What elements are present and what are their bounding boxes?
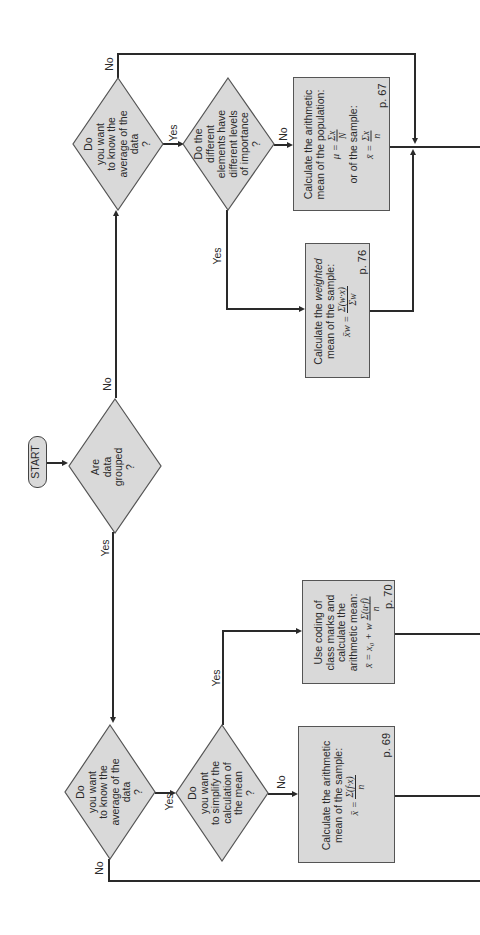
page-reference: p. 76 xyxy=(357,250,369,274)
connector-simplify-yes-h xyxy=(222,630,298,632)
process-text: Calculate the arithmetic mean of the pop… xyxy=(303,78,326,212)
arrowhead xyxy=(412,138,418,144)
connector-grouped-avg-no xyxy=(108,859,110,881)
page-reference: p. 67 xyxy=(376,84,388,108)
label-simplify-yes: Yes xyxy=(210,669,222,686)
connector-p67-output xyxy=(390,146,480,148)
label-importance-yes: Yes xyxy=(211,247,223,264)
label-importance-no: No xyxy=(277,127,289,140)
connector-p76-out xyxy=(370,310,414,312)
decision-different-importance-text: Do the different elements have different… xyxy=(193,96,263,192)
decision-grouped-average-text: Do you want to know the average of the d… xyxy=(75,744,145,840)
connector-simplify-no xyxy=(268,793,294,795)
connector-importance-yes xyxy=(226,210,228,310)
connector-right-bottom xyxy=(412,152,414,312)
label-grouped-yes: Yes xyxy=(99,539,111,556)
label-ungrouped-avg-no: No xyxy=(103,57,115,70)
process-weighted-mean: Calculate the weighted mean of the sampl… xyxy=(305,243,370,378)
label-grouped-no: No xyxy=(101,377,113,390)
connector-right-top xyxy=(414,53,416,141)
connector-p69-output xyxy=(395,795,480,797)
label-grouped-avg-yes: Yes xyxy=(163,793,175,810)
connector-ungrouped-avg-no xyxy=(117,53,119,78)
page-reference: p. 69 xyxy=(381,733,393,757)
decision-simplify-mean-text: Do you want to simplify the calculation … xyxy=(187,745,257,841)
process-text: Use coding of class marks and calculate … xyxy=(313,581,359,685)
connector-grouped-no xyxy=(115,212,117,398)
label-ungrouped-avg-yes: Yes xyxy=(167,124,179,141)
flowchart-canvas: No Yes No Yes No Yes Yes No No Yes START… xyxy=(0,0,480,935)
connector-ungrouped-avg-no-top xyxy=(117,53,416,55)
process-arithmetic-mean-population: Calculate the arithmetic mean of the pop… xyxy=(293,77,390,211)
arrowhead xyxy=(110,717,116,723)
connector-importance-yes-h xyxy=(226,308,301,310)
formula-population-mean: μ = ΣxN xyxy=(327,78,348,212)
connector-grouped-yes xyxy=(112,532,114,719)
formula-weighted-mean: x̄w = Σ(w·x)Σw xyxy=(337,244,358,379)
connector-p70-output xyxy=(395,633,480,635)
start-label: START xyxy=(30,437,44,487)
formula-coded-mean: x̄ = x₀ + w Σ(u·f)n xyxy=(360,581,381,685)
label-grouped-avg-no: No xyxy=(93,861,105,874)
formula-grouped-mean: x̄ = Σ(f·x)n xyxy=(345,727,366,864)
page-reference: p. 70 xyxy=(382,585,394,609)
label-simplify-no: No xyxy=(275,775,287,788)
decision-ungrouped-average-text: Do you want to know the average of the d… xyxy=(83,96,153,192)
process-coding-class-marks: Use coding of class marks and calculate … xyxy=(302,580,395,684)
process-grouped-arithmetic-mean: Calculate the arithmetic mean of the sam… xyxy=(298,726,395,863)
process-text: Calculate the weighted mean of the sampl… xyxy=(313,244,336,379)
connector-grouped-avg-no-h xyxy=(108,880,480,882)
process-text: Calculate the arithmetic mean of the sam… xyxy=(321,727,344,864)
arrowhead xyxy=(410,149,416,155)
connector-simplify-yes xyxy=(222,630,224,725)
process-text-middle: or of the sample: xyxy=(348,78,360,212)
decision-are-data-grouped-text: Are data grouped ? xyxy=(90,427,140,507)
